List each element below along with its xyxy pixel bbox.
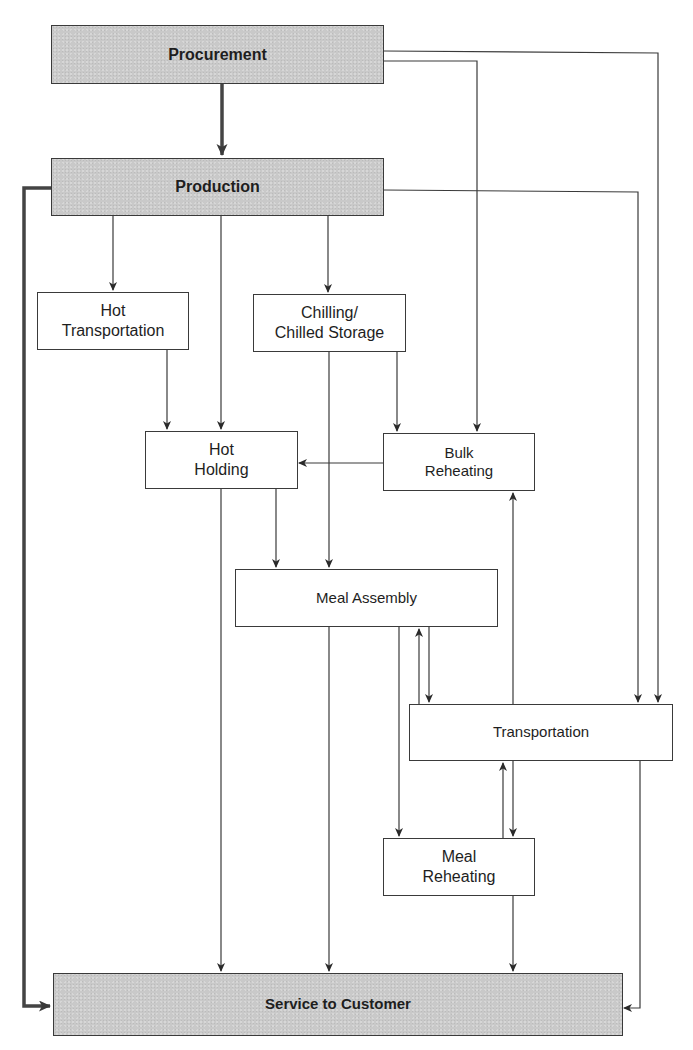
node-chilling-chilled-storage: Chilling/ Chilled Storage <box>253 294 406 352</box>
node-bulk-reheating: Bulk Reheating <box>383 433 535 491</box>
node-procurement: Procurement <box>51 25 384 84</box>
node-hot-transportation: Hot Transportation <box>37 292 189 350</box>
node-label: Hot Transportation <box>62 301 165 340</box>
edge-transportation-service <box>624 761 640 1008</box>
node-hot-holding: Hot Holding <box>145 431 298 489</box>
node-label: Service to Customer <box>265 995 411 1013</box>
node-service-to-customer: Service to Customer <box>53 973 623 1036</box>
node-meal-assembly: Meal Assembly <box>235 569 498 627</box>
node-production: Production <box>51 158 384 216</box>
node-transportation: Transportation <box>409 704 673 761</box>
node-label: Meal Reheating <box>423 847 496 886</box>
edge-procurement-bulk-reheating <box>384 61 477 431</box>
node-label: Hot Holding <box>194 440 248 479</box>
food-service-flow-diagram: Procurement Production Hot Transportatio… <box>0 0 693 1050</box>
node-meal-reheating: Meal Reheating <box>383 838 535 896</box>
node-label: Procurement <box>168 45 267 65</box>
node-label: Production <box>175 177 259 197</box>
node-label: Meal Assembly <box>316 589 417 607</box>
node-label: Bulk Reheating <box>425 444 493 481</box>
node-label: Chilling/ Chilled Storage <box>275 303 384 342</box>
node-label: Transportation <box>493 723 589 741</box>
